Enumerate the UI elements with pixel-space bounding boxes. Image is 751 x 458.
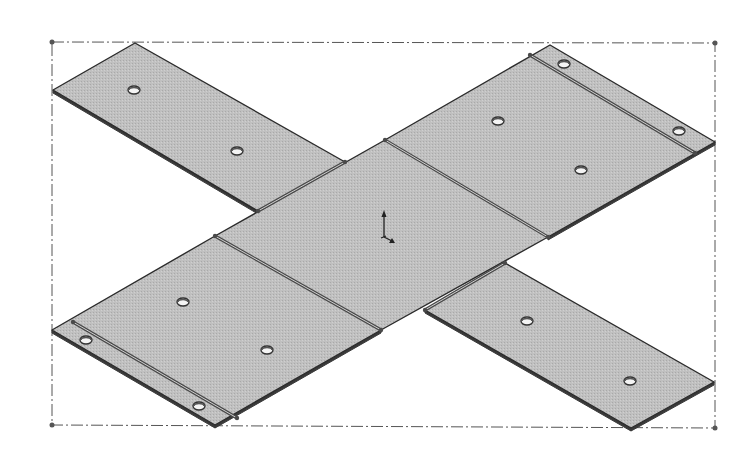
fold-end-dot bbox=[343, 160, 347, 164]
sheet-metal-flat-pattern bbox=[0, 0, 751, 458]
bbox-corner-handle[interactable] bbox=[50, 423, 55, 428]
fold-end-dot bbox=[256, 209, 260, 213]
flap-bottom-right[interactable] bbox=[425, 263, 714, 428]
fold-end-dot bbox=[693, 151, 697, 155]
fold-end-dot bbox=[71, 320, 75, 324]
fold-end-dot bbox=[213, 234, 217, 238]
bbox-corner-handle[interactable] bbox=[713, 426, 718, 431]
fold-end-dot bbox=[383, 138, 387, 142]
bbox-corner-handle[interactable] bbox=[50, 40, 55, 45]
fold-end-dot bbox=[503, 261, 507, 265]
fold-end-dot bbox=[528, 53, 532, 57]
fold-end-dot bbox=[379, 328, 383, 332]
fold-end-dot bbox=[235, 416, 239, 420]
cad-viewport[interactable] bbox=[0, 0, 751, 458]
fold-end-dot bbox=[546, 235, 550, 239]
fold-end-dot bbox=[423, 308, 427, 312]
bbox-corner-handle[interactable] bbox=[713, 41, 718, 46]
